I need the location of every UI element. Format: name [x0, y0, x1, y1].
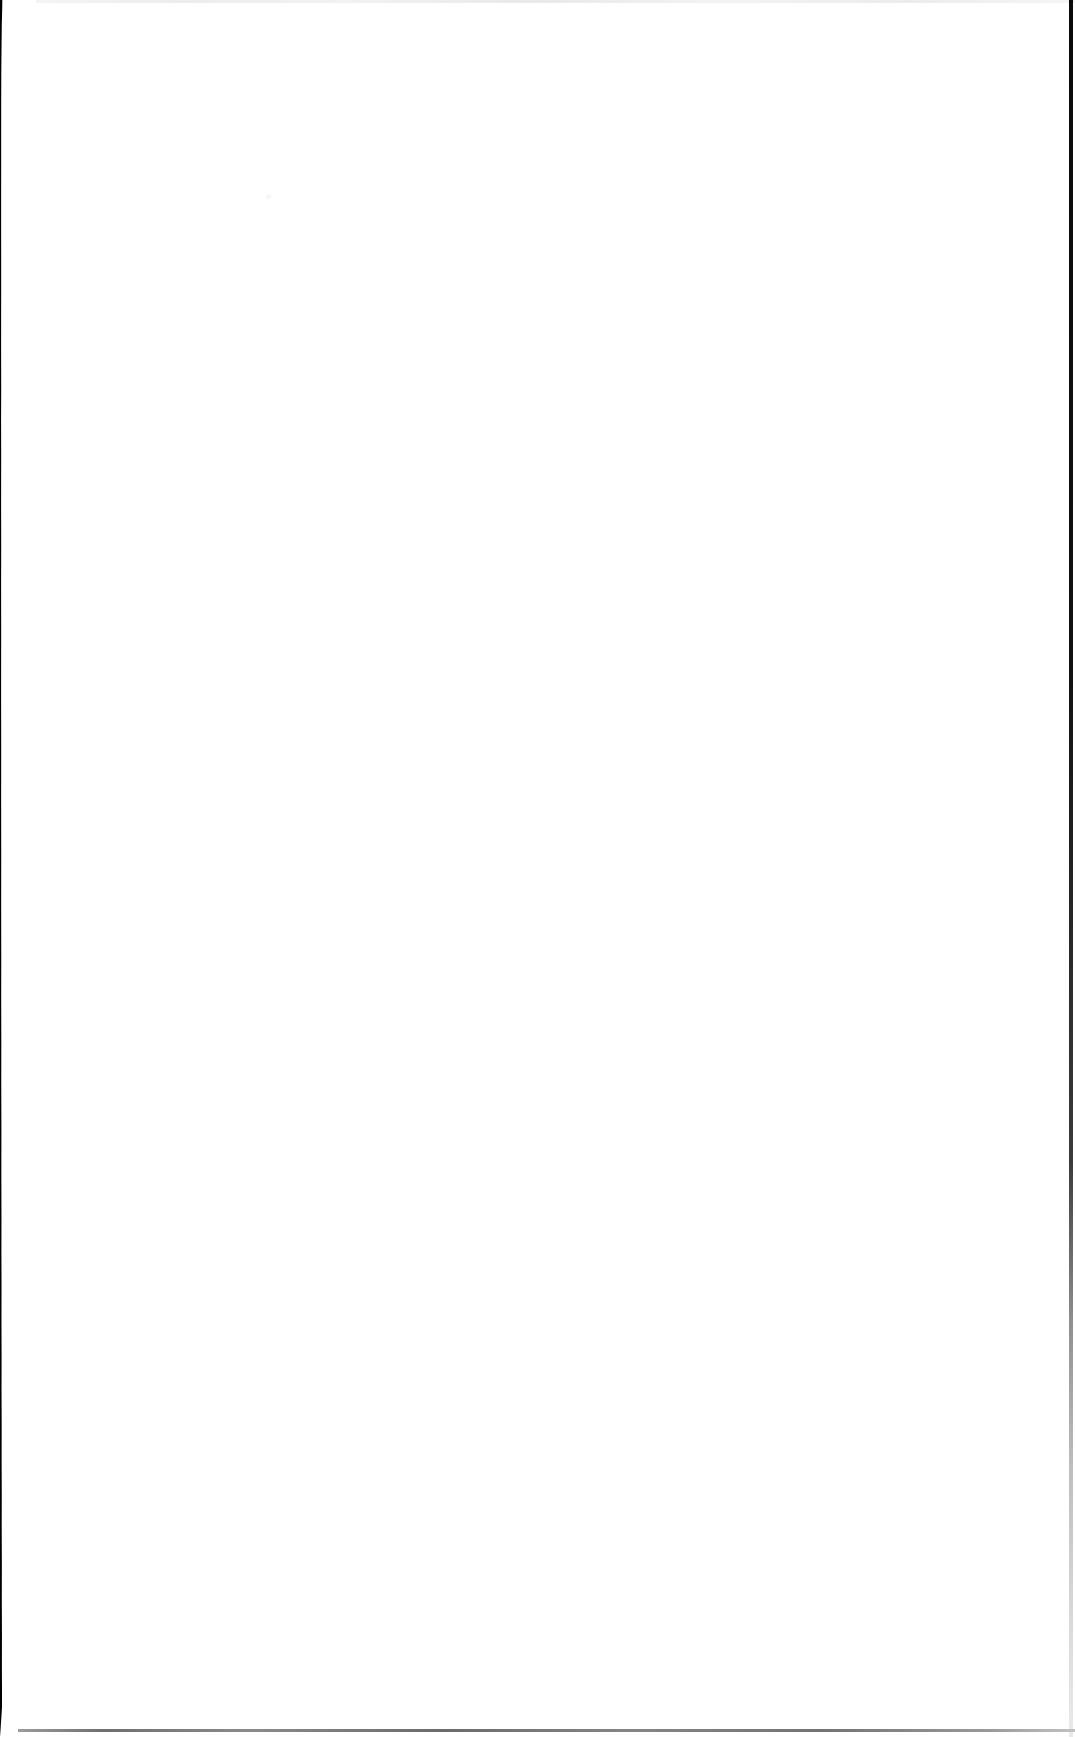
- paper-speck-artifact: [266, 194, 271, 199]
- right-edge-border-fade: [1069, 1318, 1073, 1737]
- paper-surface: [0, 0, 1075, 1737]
- bottom-edge-hairline: [18, 1729, 1075, 1732]
- scanned-page: [0, 0, 1075, 1737]
- right-edge-border-dark: [1069, 0, 1073, 1320]
- top-edge-hairline: [36, 0, 1075, 3]
